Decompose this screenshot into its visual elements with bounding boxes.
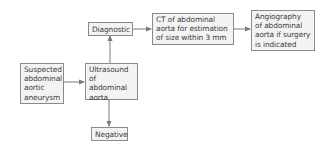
node-ct: CT of abdominal aorta for estimation of … — [152, 13, 234, 45]
node-diagnostic: Diagnostic — [88, 22, 133, 36]
node-suspected-aneurysm: Suspected abdominal aortic aneurysm — [20, 63, 64, 104]
node-angiography: Angiography of abdominal aorta if surger… — [251, 10, 315, 51]
node-negative: Negative — [91, 127, 128, 141]
node-ultrasound: Ultrasound of abdominal aorta — [85, 63, 138, 100]
